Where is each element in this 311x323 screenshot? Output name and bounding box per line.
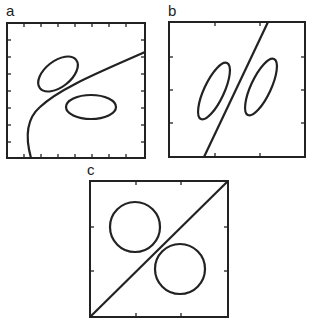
panel-b-ellipse-left	[192, 59, 236, 124]
panel-c-label: c	[87, 161, 95, 178]
panel-a-label: a	[6, 2, 15, 19]
panel-c-boundary-line	[90, 181, 228, 317]
panel-b-boundary-line	[204, 22, 268, 157]
figure: a b	[0, 0, 311, 323]
panel-b-label: b	[168, 2, 176, 19]
panel-a: a	[6, 2, 145, 158]
panel-c: c	[87, 161, 228, 317]
panel-a-ellipse-upper	[32, 50, 84, 99]
panel-b-ellipse-right	[239, 55, 283, 120]
panel-a-ellipse-lower	[66, 95, 116, 119]
panel-b: b	[168, 2, 305, 157]
panel-c-circle-lower-right	[155, 244, 205, 294]
panel-c-circle-upper-left	[110, 202, 160, 252]
